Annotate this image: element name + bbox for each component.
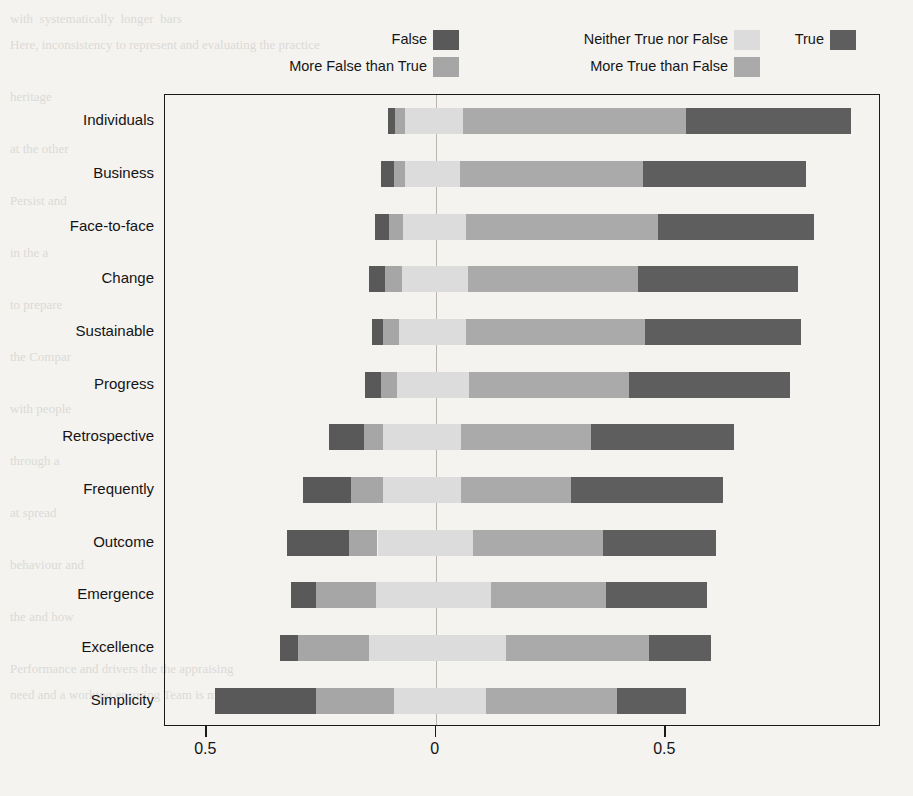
bar-segment-more_true: [461, 477, 571, 503]
bar-segment-neither: [397, 372, 469, 398]
legend: False More False than True Neither True …: [246, 26, 886, 88]
bar-segment-false: [329, 424, 364, 450]
legend-item-neither-true-nor-false: Neither True nor False: [474, 26, 760, 53]
bar-segment-more_true: [466, 214, 659, 240]
bar-segment-more_true: [506, 635, 648, 661]
bar-segment-true: [649, 635, 711, 661]
x-axis-tick-label: 0.5: [653, 740, 675, 758]
bar-segment-true: [658, 214, 814, 240]
legend-label-true: True: [795, 26, 824, 53]
legend-label-neither-true-nor-false: Neither True nor False: [584, 26, 728, 53]
bar-segment-more_false: [298, 635, 369, 661]
bar-segment-more_false: [364, 424, 382, 450]
bar-segment-more_true: [486, 688, 617, 714]
legend-item-more-false-than-true: More False than True: [246, 53, 459, 80]
x-axis-tick: [205, 726, 206, 737]
bar-segment-more_true: [466, 319, 645, 345]
y-axis-label-face-to-face: Face-to-face: [4, 218, 154, 234]
bar-segment-more_true: [468, 266, 638, 292]
bar-segment-more_true: [463, 108, 686, 134]
bar-segment-neither: [383, 477, 461, 503]
bar-segment-false: [388, 108, 395, 134]
bar-segment-more_true: [473, 530, 604, 556]
legend-swatch-more-true-than-false: [734, 57, 760, 77]
bar-row: [165, 688, 879, 714]
bar-segment-true: [645, 319, 801, 345]
y-axis-label-emergence: Emergence: [4, 586, 154, 602]
y-axis-label-individuals: Individuals: [4, 112, 154, 128]
bar-row: [165, 161, 879, 187]
bar-segment-neither: [399, 319, 466, 345]
y-axis-labels: IndividualsBusinessFace-to-faceChangeSus…: [0, 94, 154, 726]
legend-label-false: False: [392, 26, 427, 53]
legend-swatch-true: [830, 30, 856, 50]
bar-segment-true: [571, 477, 722, 503]
bar-row: [165, 108, 879, 134]
zero-reference-line: [436, 95, 437, 725]
x-axis-tick: [435, 726, 436, 737]
bar-row: [165, 582, 879, 608]
bar-segment-true: [606, 582, 707, 608]
bar-row: [165, 372, 879, 398]
legend-label-more-false-than-true: More False than True: [289, 53, 427, 80]
y-axis-label-outcome: Outcome: [4, 534, 154, 550]
legend-label-more-true-than-false: More True than False: [590, 53, 728, 80]
bar-segment-neither: [405, 108, 463, 134]
y-axis-label-progress: Progress: [4, 376, 154, 392]
bar-segment-more_false: [316, 582, 376, 608]
bar-segment-false: [280, 635, 298, 661]
bar-segment-neither: [402, 266, 468, 292]
legend-column-2: Neither True nor False More True than Fa…: [474, 26, 760, 80]
bar-segment-neither: [376, 582, 491, 608]
bar-segment-more_false: [383, 319, 399, 345]
bar-segment-neither: [403, 214, 466, 240]
bar-segment-false: [215, 688, 316, 714]
bar-row: [165, 477, 879, 503]
plot-area: [164, 94, 880, 726]
bar-row: [165, 635, 879, 661]
bar-segment-neither: [405, 161, 460, 187]
bar-segment-more_true: [461, 424, 592, 450]
x-axis-tick-label: 0: [430, 740, 439, 758]
bar-segment-false: [375, 214, 389, 240]
y-axis-label-retrospective: Retrospective: [4, 428, 154, 444]
bar-segment-more_false: [381, 372, 397, 398]
legend-item-true: True: [776, 26, 856, 53]
bar-segment-more_false: [389, 214, 403, 240]
bar-segment-more_false: [385, 266, 402, 292]
legend-swatch-neither-true-nor-false: [734, 30, 760, 50]
x-axis-tick: [664, 726, 665, 737]
bar-segment-true: [686, 108, 851, 134]
bar-row: [165, 424, 879, 450]
bar-segment-neither: [383, 424, 461, 450]
bar-segment-more_false: [351, 477, 383, 503]
bar-segment-true: [603, 530, 715, 556]
x-axis: 0.500.5: [164, 726, 880, 772]
bar-segment-false: [287, 530, 349, 556]
legend-column-3: True: [776, 26, 856, 53]
y-axis-label-change: Change: [4, 270, 154, 286]
bar-segment-false: [372, 319, 383, 345]
bar-segment-neither: [378, 530, 473, 556]
bar-segment-more_false: [395, 108, 405, 134]
bar-segment-neither: [369, 635, 507, 661]
legend-item-false: False: [246, 26, 459, 53]
x-axis-tick-label: 0.5: [194, 740, 216, 758]
bar-row: [165, 214, 879, 240]
bar-row: [165, 530, 879, 556]
y-axis-label-business: Business: [4, 165, 154, 181]
legend-item-more-true-than-false: More True than False: [474, 53, 760, 80]
bar-segment-true: [629, 372, 790, 398]
bar-segment-more_true: [469, 372, 630, 398]
bar-segment-true: [617, 688, 686, 714]
bar-segment-false: [381, 161, 395, 187]
bar-segment-more_false: [316, 688, 394, 714]
y-axis-label-sustainable: Sustainable: [4, 323, 154, 339]
bar-segment-true: [638, 266, 799, 292]
bar-segment-false: [365, 372, 381, 398]
bar-row: [165, 319, 879, 345]
legend-column-1: False More False than True: [246, 26, 459, 80]
bar-segment-more_false: [394, 161, 404, 187]
bar-segment-true: [643, 161, 806, 187]
legend-swatch-more-false-than-true: [433, 57, 459, 77]
